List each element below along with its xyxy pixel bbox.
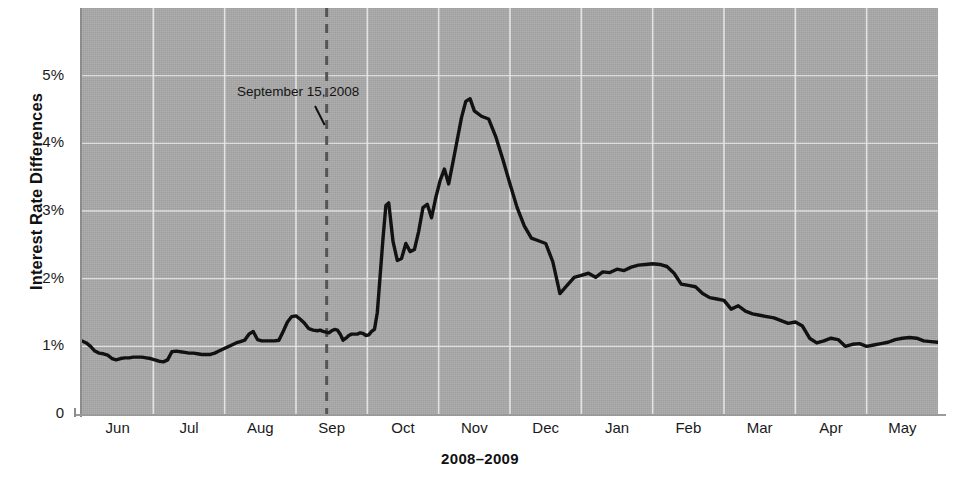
y-tick-label: 5%	[0, 66, 74, 83]
x-tick-label: Apr	[796, 419, 866, 436]
x-axis-title: 2008–2009	[0, 450, 960, 467]
y-tick-label: 4%	[0, 133, 74, 150]
chart-canvas	[82, 8, 938, 414]
annotation-leader-line	[315, 106, 325, 125]
y-tick-label: 1%	[0, 336, 74, 353]
x-tick-label: Feb	[653, 419, 723, 436]
x-tick-label: Jul	[154, 419, 224, 436]
y-tick-label: 3%	[0, 201, 74, 218]
chart-figure: Interest Rate Differences 01%2%3%4%5% Ju…	[0, 0, 960, 485]
x-tick-label: Aug	[225, 419, 295, 436]
x-tick-label: Jan	[582, 419, 652, 436]
x-tick-label: Mar	[725, 419, 795, 436]
y-axis-zero-tick	[74, 408, 76, 417]
x-tick-label: Dec	[511, 419, 581, 436]
x-tick-label: May	[867, 419, 937, 436]
x-axis-spine	[74, 414, 946, 416]
y-tick-label: 2%	[0, 269, 74, 286]
y-tick-label: 0	[0, 404, 74, 421]
y-axis-title: Interest Rate Differences	[27, 52, 46, 332]
x-tick-label: Jun	[83, 419, 153, 436]
plot-area	[82, 8, 938, 414]
x-tick-label: Nov	[439, 419, 509, 436]
x-tick-label: Oct	[368, 419, 438, 436]
annotation-label: September 15, 2008	[237, 84, 359, 99]
x-tick-label: Sep	[297, 419, 367, 436]
